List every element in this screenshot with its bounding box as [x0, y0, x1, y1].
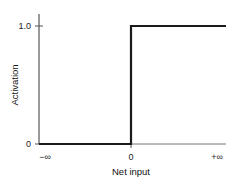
x-tick-label-zero: 0: [128, 152, 133, 162]
step-function-line: [39, 26, 226, 144]
step-activation-chart: 1.0 0 −∞ 0 +∞ Net input Activation: [0, 0, 237, 186]
y-axis-title: Activation: [9, 64, 20, 105]
x-axis-title: Net input: [112, 166, 150, 177]
x-tick-label-pos-inf: +∞: [211, 152, 223, 162]
x-tick-label-neg-inf: −∞: [39, 152, 51, 162]
y-tick-label-zero: 0: [26, 139, 31, 149]
y-tick-label-one: 1.0: [18, 21, 31, 31]
